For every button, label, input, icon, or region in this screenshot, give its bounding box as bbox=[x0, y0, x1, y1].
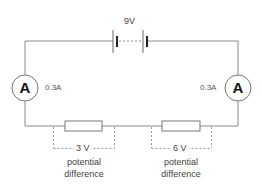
resistor-2-voltage: 6 V bbox=[171, 144, 189, 153]
resistor-2-icon bbox=[162, 121, 200, 131]
resistor-2-caption-line1: potential bbox=[146, 156, 216, 168]
ammeter-left-reading: 0.3A bbox=[45, 84, 61, 92]
ammeter-right-reading: 0.3A bbox=[200, 84, 216, 92]
battery-voltage-label: 9V bbox=[124, 17, 135, 26]
ammeter-left-symbol: A bbox=[12, 75, 38, 101]
resistor-2-caption: potential difference bbox=[146, 156, 216, 180]
resistor-1-caption-line1: potential bbox=[49, 156, 119, 168]
resistor-1-caption: potential difference bbox=[49, 156, 119, 180]
resistor-2-caption-line2: difference bbox=[146, 168, 216, 180]
battery-icon bbox=[113, 30, 147, 53]
circuit-diagram bbox=[0, 0, 262, 193]
resistor-1-voltage: 3 V bbox=[74, 144, 92, 153]
resistor-1-caption-line2: difference bbox=[49, 168, 119, 180]
resistor-1-icon bbox=[65, 121, 102, 131]
ammeter-right-symbol: A bbox=[225, 75, 251, 101]
